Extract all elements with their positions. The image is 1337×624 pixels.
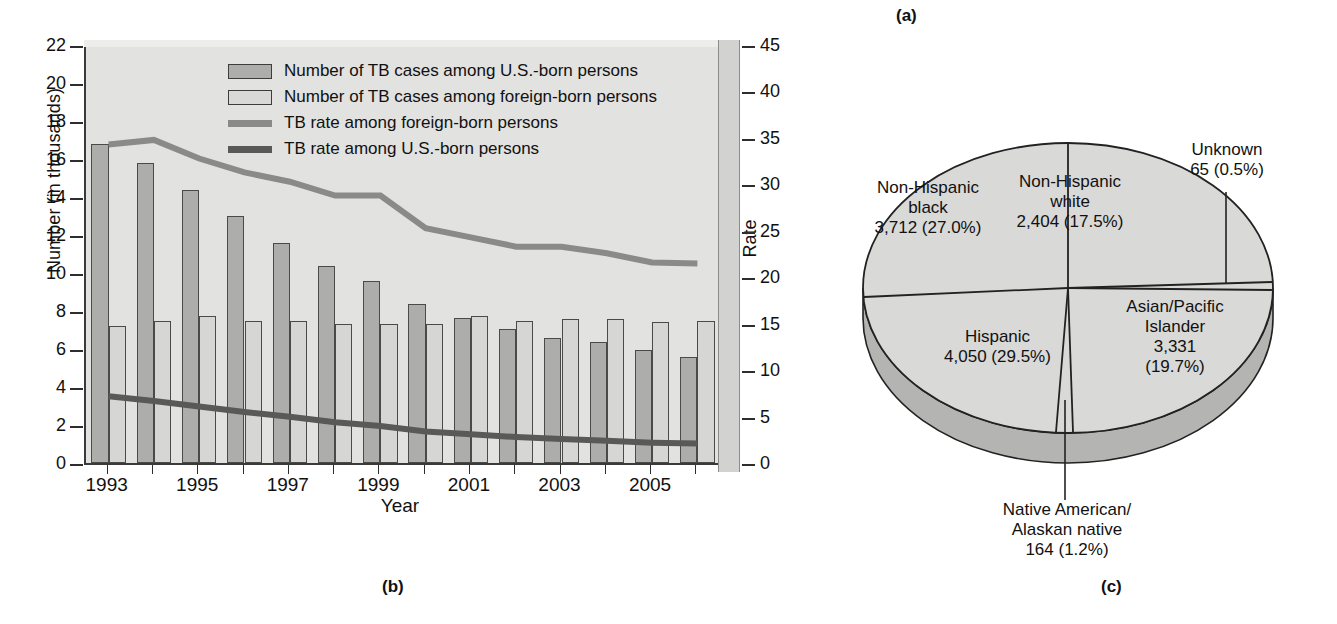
pie-label-line: Hispanic: [905, 327, 1090, 347]
pie-label-line: 3,331: [1090, 337, 1260, 357]
y-tick-mark-left: [70, 388, 83, 390]
x-tick-mark: [152, 465, 153, 474]
x-tick-mark: [695, 465, 696, 474]
y-tick-mark-left: [70, 160, 83, 162]
plot-area: Number of TB cases among U.S.-born perso…: [84, 47, 718, 465]
x-tick-mark: [514, 465, 515, 474]
x-tick-label: 1995: [176, 474, 218, 496]
y-tick-mark-left: [70, 198, 83, 200]
panel-tag-b: (b): [382, 577, 404, 597]
legend-label-line-us-born: TB rate among U.S.-born persons: [284, 139, 539, 159]
y-tick-mark-left: [70, 84, 83, 86]
x-tick-mark: [107, 465, 108, 474]
y-tick-label-left: 16: [20, 149, 66, 170]
x-tick-mark: [333, 465, 334, 474]
x-axis-label: Year: [80, 495, 720, 517]
y-tick-label-left: 2: [20, 415, 66, 436]
pie-label-native-american-alaskan-native: Native American/ Alaskan native 164 (1.2…: [952, 500, 1182, 560]
y-tick-label-left: 20: [20, 73, 66, 94]
pie-label-line: white: [975, 192, 1165, 212]
y-tick-mark-left: [70, 274, 83, 276]
legend-item-bar-foreign-born: Number of TB cases among foreign-born pe…: [228, 85, 657, 109]
pie-label-non-hispanic-white: Non-Hispanic white 2,404 (17.5%): [975, 172, 1165, 232]
y-tick-mark-left: [70, 312, 83, 314]
pie-label-line: (19.7%): [1090, 357, 1260, 377]
x-tick-mark: [243, 465, 244, 474]
legend-item-line-foreign-born: TB rate among foreign-born persons: [228, 111, 657, 135]
legend-swatch-bar-us-born-icon: [228, 64, 272, 79]
legend-label-bar-foreign-born: Number of TB cases among foreign-born pe…: [284, 87, 657, 107]
y-tick-mark-right: [742, 325, 755, 327]
x-tick-mark: [560, 465, 561, 474]
pie-label-asian-pacific-islander: Asian/Pacific Islander 3,331 (19.7%): [1090, 297, 1260, 377]
pie-label-line: 4,050 (29.5%): [905, 347, 1090, 367]
panel-tag-c: (c): [1101, 577, 1122, 597]
pie-label-line: Islander: [1090, 317, 1260, 337]
pie-label-line: Native American/: [952, 500, 1182, 520]
pie-label-line: Alaskan native: [952, 520, 1182, 540]
y-tick-label-left: 4: [20, 377, 66, 398]
y-tick-label-left: 8: [20, 301, 66, 322]
legend-swatch-bar-foreign-born-icon: [228, 90, 272, 105]
line-tb-rate-us-born: [109, 396, 698, 443]
x-tick-mark: [424, 465, 425, 474]
y-axis-label-right: Rate: [740, 179, 761, 299]
legend-swatch-line-foreign-born-icon: [228, 120, 272, 127]
pie-label-line: Non-Hispanic: [975, 172, 1165, 192]
x-tick-label: 2001: [448, 474, 490, 496]
x-tick-mark: [378, 465, 379, 474]
pie-label-line: 2,404 (17.5%): [975, 212, 1165, 232]
y-tick-label-left: 14: [20, 187, 66, 208]
figure-root: Number (in thousands) Rate Year 02468101…: [0, 0, 1337, 624]
legend-label-line-foreign-born: TB rate among foreign-born persons: [284, 113, 558, 133]
y-tick-label-left: 22: [20, 35, 66, 56]
pie-label-line: 65 (0.5%): [1152, 160, 1302, 180]
y-tick-label-left: 12: [20, 225, 66, 246]
y-tick-mark-right: [742, 464, 755, 466]
pie-label-line: Unknown: [1152, 140, 1302, 160]
x-tick-mark: [605, 465, 606, 474]
y-tick-mark-left: [70, 122, 83, 124]
y-tick-mark-right: [742, 92, 755, 94]
pie-label-hispanic: Hispanic 4,050 (29.5%): [905, 327, 1090, 367]
pie-label-line: Asian/Pacific: [1090, 297, 1260, 317]
y-tick-mark-left: [70, 46, 83, 48]
y-tick-mark-left: [70, 350, 83, 352]
legend-item-bar-us-born: Number of TB cases among U.S.-born perso…: [228, 59, 657, 83]
panel-tag-a: (a): [896, 6, 917, 26]
plot-right-wall: [718, 40, 740, 472]
x-tick-label: 2003: [538, 474, 580, 496]
pie-label-unknown: Unknown 65 (0.5%): [1152, 140, 1302, 180]
y-tick-mark-right: [742, 232, 755, 234]
y-tick-label-left: 18: [20, 111, 66, 132]
x-tick-label: 1997: [267, 474, 309, 496]
chart-legend: Number of TB cases among U.S.-born perso…: [228, 59, 657, 163]
y-tick-mark-left: [70, 464, 83, 466]
x-tick-mark: [469, 465, 470, 474]
legend-label-bar-us-born: Number of TB cases among U.S.-born perso…: [284, 61, 638, 81]
y-tick-mark-right: [742, 46, 755, 48]
y-tick-mark-left: [70, 236, 83, 238]
x-tick-label: 1999: [357, 474, 399, 496]
y-tick-label-left: 0: [20, 453, 66, 474]
legend-swatch-line-us-born-icon: [228, 146, 272, 153]
legend-item-line-us-born: TB rate among U.S.-born persons: [228, 137, 657, 161]
y-tick-mark-right: [742, 185, 755, 187]
x-tick-mark: [288, 465, 289, 474]
y-tick-label-left: 6: [20, 339, 66, 360]
y-tick-mark-right: [742, 278, 755, 280]
panel-b-combo-chart: Number (in thousands) Rate Year 02468101…: [0, 0, 800, 624]
y-tick-mark-left: [70, 426, 83, 428]
pie-label-line: 164 (1.2%): [952, 540, 1182, 560]
y-tick-mark-right: [742, 418, 755, 420]
y-tick-mark-right: [742, 371, 755, 373]
y-tick-label-left: 10: [20, 263, 66, 284]
panel-c-pie-chart: Non-Hispanic black 3,712 (27.0%) Non-His…: [800, 0, 1337, 624]
x-tick-mark: [197, 465, 198, 474]
x-tick-mark: [650, 465, 651, 474]
y-tick-mark-right: [742, 139, 755, 141]
x-tick-label: 1993: [86, 474, 128, 496]
x-tick-label: 2005: [629, 474, 671, 496]
